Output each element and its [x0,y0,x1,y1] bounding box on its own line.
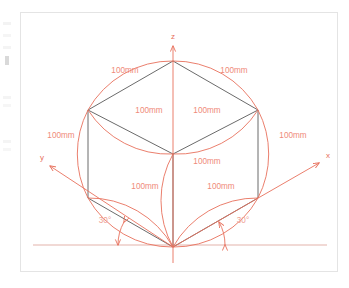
angle-arc-right [219,222,225,245]
dim-label-center-vertical-edge: 100mm [193,157,220,166]
margin-artifact [3,96,11,99]
dim-label-bottom-right-edge: 100mm [207,182,234,191]
dim-label-right-vertical-edge: 100mm [279,131,306,140]
margin-artifact [5,56,9,65]
margin-artifact [3,140,11,143]
x-axis-line [173,163,319,247]
y-axis-line [50,166,173,247]
margin-artifact [3,104,11,107]
dim-label-top-left-edge: 100mm [111,66,138,75]
dim-arc-center-vertical [161,154,173,247]
x-axis-label: x [326,151,330,160]
dim-label-upper-inner-left-edge: 100mm [135,106,162,115]
cube-edge-center-to-upper-left [88,110,173,154]
dim-label-upper-inner-right-edge: 100mm [193,106,220,115]
z-axis-label: z [171,32,175,41]
dim-arc-right-side [258,110,269,198]
margin-artifact [3,46,11,49]
margin-artifact [3,22,11,25]
margin-artifact [3,34,11,37]
angle-label-left: 30° [99,216,111,225]
cube-edge-center-to-upper-right [173,110,258,154]
isometric-cube-diagram: z x y 100mm 100mm 100mm 100mm 100mm 100m… [21,13,339,273]
margin-artifact [3,148,11,151]
left-margin-artifacts [0,0,18,288]
y-axis-label: y [40,153,44,162]
angle-label-right: 30° [237,216,249,225]
dim-label-left-vertical-edge: 100mm [47,131,74,140]
dim-label-bottom-left-edge: 100mm [131,182,158,191]
figure-frame: z x y 100mm 100mm 100mm 100mm 100mm 100m… [20,12,338,272]
dim-label-top-right-edge: 100mm [220,66,247,75]
